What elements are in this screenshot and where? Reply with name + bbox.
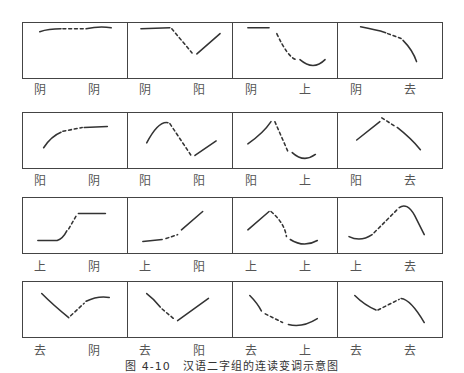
first-tone-label: 去 [245,341,257,358]
second-tone-label: 阴 [88,80,100,97]
figure-caption: 图 4-10 汉语二字组的连读变调示意图 [0,357,464,373]
tone-cell-yang-yang [128,113,233,168]
second-tone-label: 阴 [88,257,100,274]
second-tone-label: 阴 [88,171,100,188]
tone-labels-row-4: 去阴 去阳 去上 去去 [22,341,443,357]
first-tone-label: 上 [350,257,362,274]
first-tone-label: 去 [139,341,151,358]
first-tone-label: 上 [245,257,257,274]
first-tone-label: 阴 [34,80,46,97]
second-tone-label: 阳 [193,171,205,188]
tone-cell-shang-yang [128,198,233,253]
tone-labels-row-1: 阴阴 阴阳 阴上 阴去 [22,80,443,96]
pitch-contour [128,113,232,168]
second-tone-label: 去 [404,341,416,358]
pitch-contour [128,198,232,253]
second-tone-label: 阳 [193,80,205,97]
tone-cell-shang-yin [23,198,128,253]
second-tone-label: 去 [404,257,416,274]
second-tone-label: 阳 [193,341,205,358]
first-tone-label: 阳 [350,171,362,188]
pitch-contour [233,198,337,253]
tone-row-2 [22,112,443,169]
first-tone-label: 阳 [139,171,151,188]
tone-row-1 [22,22,443,79]
first-tone-label: 上 [139,257,151,274]
second-tone-label: 去 [404,80,416,97]
second-tone-label: 上 [299,80,311,97]
tone-cell-qu-yang [128,282,233,337]
pitch-contour [338,282,442,337]
pitch-contour [23,23,127,78]
pitch-contour [338,198,442,253]
pitch-contour [338,23,442,78]
pitch-contour [128,282,232,337]
second-tone-label: 上 [299,341,311,358]
tone-labels-row-2: 阳阴 阳阳 阳上 阳去 [22,171,443,187]
pitch-contour [128,23,232,78]
tone-cell-yang-yin [23,113,128,168]
tone-cell-qu-shang [233,282,338,337]
first-tone-label: 阳 [34,171,46,188]
pitch-contour [233,113,337,168]
first-tone-label: 去 [34,341,46,358]
second-tone-label: 去 [404,171,416,188]
tone-cell-shang-qu [338,198,442,253]
tone-cell-shang-shang [233,198,338,253]
pitch-contour [23,198,127,253]
tone-cell-yang-qu [338,113,442,168]
first-tone-label: 上 [34,257,46,274]
second-tone-label: 阴 [88,341,100,358]
tone-cell-yin-qu [338,23,442,78]
second-tone-label: 上 [299,257,311,274]
second-tone-label: 上 [299,171,311,188]
tone-cell-yang-shang [233,113,338,168]
tone-cell-yin-yin [23,23,128,78]
first-tone-label: 阴 [350,80,362,97]
first-tone-label: 阴 [245,80,257,97]
pitch-contour [23,113,127,168]
tone-row-4 [22,281,443,338]
tone-cell-qu-qu [338,282,442,337]
pitch-contour [233,23,337,78]
tone-cell-yin-yang [128,23,233,78]
first-tone-label: 去 [350,341,362,358]
tone-labels-row-3: 上阴 上阳 上上 上去 [22,257,443,273]
tone-cell-qu-yin [23,282,128,337]
pitch-contour [233,282,337,337]
second-tone-label: 阳 [193,257,205,274]
first-tone-label: 阴 [139,80,151,97]
pitch-contour [338,113,442,168]
pitch-contour [23,282,127,337]
tone-row-3 [22,197,443,254]
first-tone-label: 阳 [245,171,257,188]
tone-cell-yin-shang [233,23,338,78]
